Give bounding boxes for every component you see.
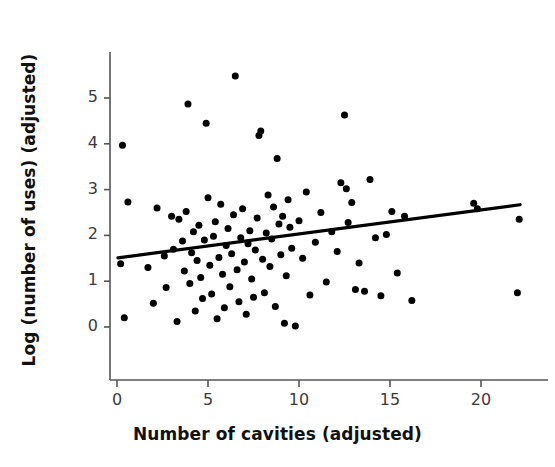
data-point [221,304,228,311]
data-point [212,218,219,225]
data-point [263,230,270,237]
data-point [317,209,324,216]
data-point [195,222,202,229]
data-point [226,283,233,290]
data-point [299,255,306,262]
data-point [265,192,272,199]
data-point [348,199,355,206]
data-point [232,73,239,80]
data-point [275,220,282,227]
data-point [306,291,313,298]
data-point [383,231,390,238]
y-axis-tick-label: 2 [74,224,98,243]
data-point [190,228,197,235]
data-point [188,249,195,256]
x-axis-tick-label: 15 [375,390,405,409]
data-point [205,194,212,201]
data-point [408,297,415,304]
data-point [272,303,279,310]
data-point [124,198,131,205]
y-axis-tick-label: 1 [74,270,98,289]
data-point [144,264,151,271]
data-point [345,219,352,226]
data-point [243,311,250,318]
data-point [356,259,363,266]
x-axis-ticks [117,380,481,387]
data-point [372,234,379,241]
data-point [217,201,224,208]
data-point [286,224,293,231]
data-point [203,120,210,127]
data-point [246,227,253,234]
data-point [516,216,523,223]
data-point [283,272,290,279]
data-point [281,320,288,327]
data-point-group [117,73,523,330]
axis-spines [110,52,548,380]
data-point [279,213,286,220]
data-point [175,216,182,223]
y-axis-tick-label: 0 [74,316,98,335]
x-axis-tick-label: 5 [193,390,223,409]
data-point [219,271,226,278]
data-point [514,289,521,296]
data-point [179,237,186,244]
data-point [186,280,193,287]
data-point [181,268,188,275]
data-point [248,275,255,282]
y-axis-tick-label: 3 [74,179,98,198]
data-point [234,266,241,273]
data-point [117,260,124,267]
data-point [119,142,126,149]
data-point [394,269,401,276]
data-point [197,274,204,281]
data-point [174,318,181,325]
y-axis-tick-label: 4 [74,133,98,152]
data-point [215,254,222,261]
data-point [235,298,242,305]
data-point [259,256,266,263]
data-point [274,155,281,162]
y-axis-tick-label: 5 [74,87,98,106]
data-point [303,188,310,195]
data-point [250,294,257,301]
scatter-plot-figure: Log (number of uses) (adjusted) Number o… [0,0,555,467]
data-point [201,236,208,243]
data-point [183,208,190,215]
data-point [199,295,206,302]
data-point [208,291,215,298]
x-axis-tick-label: 10 [284,390,314,409]
data-point [366,176,373,183]
data-point [194,257,201,264]
data-point [254,214,261,221]
data-point [163,284,170,291]
y-axis-ticks [104,98,110,327]
data-point [312,239,319,246]
data-point [150,300,157,307]
data-point [288,245,295,252]
data-point [341,111,348,118]
data-point [210,233,217,240]
data-point [337,179,344,186]
data-point [241,258,248,265]
data-point [388,208,395,215]
data-point [214,315,221,322]
data-point [277,251,284,258]
data-point [292,323,299,330]
data-point [285,196,292,203]
data-point [343,185,350,192]
data-point [239,205,246,212]
data-point [206,262,213,269]
data-point [154,204,161,211]
data-point [261,289,268,296]
x-axis-tick-label: 0 [102,390,132,409]
data-point [228,250,235,257]
data-point [184,100,191,107]
data-point [257,127,264,134]
data-point [334,248,341,255]
data-point [323,279,330,286]
x-axis-tick-label: 20 [466,390,496,409]
data-point [296,217,303,224]
data-point [361,288,368,295]
data-point [266,263,273,270]
